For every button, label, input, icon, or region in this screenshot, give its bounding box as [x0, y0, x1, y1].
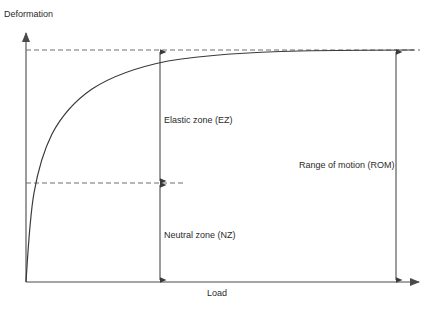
- range-of-motion-label: Range of motion (ROM): [299, 160, 395, 171]
- chart-canvas: [0, 0, 432, 309]
- neutral-zone-label: Neutral zone (NZ): [164, 230, 236, 241]
- y-axis-label: Deformation: [4, 9, 53, 20]
- x-axis-label: Load: [207, 288, 227, 299]
- elastic-zone-label: Elastic zone (EZ): [164, 115, 233, 126]
- load-deformation-diagram: Deformation Load Elastic zone (EZ) Neutr…: [0, 0, 432, 309]
